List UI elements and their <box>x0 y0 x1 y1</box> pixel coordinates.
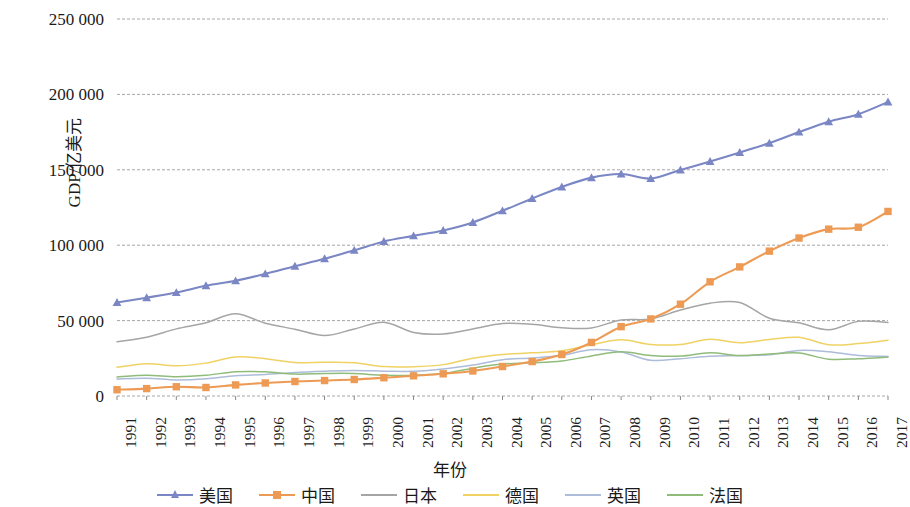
series-line <box>117 301 888 341</box>
y-axis-tick-labels: 250 000200 000150 000100 00050 0000 <box>20 0 104 507</box>
legend-line <box>463 494 499 496</box>
x-tick-label: 2007 <box>597 417 613 448</box>
data-point-marker <box>617 323 624 330</box>
x-tick-label: 2016 <box>864 417 880 448</box>
legend-swatch-icon <box>361 488 397 502</box>
legend-item-2[interactable]: 中国 <box>259 482 335 507</box>
legend-item-6[interactable]: 法国 <box>667 482 743 507</box>
data-point-marker <box>469 367 476 374</box>
series-2 <box>113 208 891 394</box>
x-tick-label: 1996 <box>271 417 287 448</box>
data-point-marker <box>647 315 654 322</box>
data-point-marker <box>143 385 150 392</box>
y-tick-label: 250 000 <box>20 11 104 28</box>
data-point-marker <box>884 208 891 215</box>
plot-area <box>117 19 888 396</box>
x-tick-label: 1999 <box>360 417 376 448</box>
data-point-marker <box>291 378 298 385</box>
x-tick-label: 1993 <box>182 417 198 448</box>
x-tick-label: 1992 <box>153 417 169 448</box>
legend-item-3[interactable]: 日本 <box>361 482 437 507</box>
x-tick-label: 2004 <box>509 417 525 448</box>
x-tick-label: 2011 <box>716 418 732 448</box>
legend-label: 美国 <box>199 482 233 507</box>
y-tick-label: 200 000 <box>20 86 104 103</box>
legend-swatch-icon <box>463 488 499 502</box>
legend-label: 中国 <box>301 482 335 507</box>
x-tick-label: 2006 <box>568 417 584 448</box>
series-3 <box>117 301 888 341</box>
data-point-marker <box>528 358 535 365</box>
x-tick-label: 2008 <box>627 417 643 448</box>
data-point-marker <box>795 234 802 241</box>
y-tick-label: 0 <box>20 388 104 405</box>
data-point-marker <box>588 339 595 346</box>
x-tick-label: 2009 <box>657 417 673 448</box>
data-point-marker <box>766 247 773 254</box>
y-tick-label: 50 000 <box>20 313 104 330</box>
legend-marker-icon <box>171 490 179 498</box>
x-tick-label: 1997 <box>301 417 317 448</box>
data-point-marker <box>706 278 713 285</box>
x-tick-label: 1998 <box>331 417 347 448</box>
legend-item-1[interactable]: 美国 <box>157 482 233 507</box>
x-tick-label: 2005 <box>538 417 554 448</box>
data-point-marker <box>736 263 743 270</box>
data-point-marker <box>321 377 328 384</box>
legend-swatch-icon <box>565 488 601 502</box>
data-point-marker <box>439 370 446 377</box>
x-tick-label: 2002 <box>449 417 465 448</box>
series-1 <box>113 98 893 306</box>
x-tick-label: 1995 <box>242 417 258 448</box>
legend-line <box>667 494 703 496</box>
legend-swatch-icon <box>667 488 703 502</box>
x-tick-label: 2013 <box>775 417 791 448</box>
x-tick-label: 2000 <box>390 417 406 448</box>
x-tick-label: 2003 <box>479 417 495 448</box>
data-point-marker <box>173 383 180 390</box>
x-tick-label: 2015 <box>835 417 851 448</box>
data-point-marker <box>410 372 417 379</box>
y-tick-label: 150 000 <box>20 162 104 179</box>
data-point-marker <box>884 98 893 106</box>
data-point-marker <box>558 351 565 358</box>
data-point-marker <box>825 225 832 232</box>
legend-line <box>361 494 397 496</box>
legend-swatch-icon <box>259 488 295 502</box>
plot-svg <box>117 19 888 396</box>
data-point-marker <box>351 376 358 383</box>
data-point-marker <box>232 381 239 388</box>
x-tick-label: 2010 <box>686 417 702 448</box>
x-tick-label: 1994 <box>212 417 228 448</box>
data-point-marker <box>677 301 684 308</box>
legend-line <box>565 494 601 496</box>
legend-marker-icon <box>273 491 281 499</box>
legend-item-5[interactable]: 英国 <box>565 482 641 507</box>
data-point-marker <box>113 386 120 393</box>
legend-label: 德国 <box>505 482 539 507</box>
data-point-marker <box>380 374 387 381</box>
legend-label: 法国 <box>709 482 743 507</box>
x-tick-label: 2012 <box>746 417 762 448</box>
x-tick-label: 2001 <box>420 417 436 448</box>
legend-label: 英国 <box>607 482 641 507</box>
data-point-marker <box>262 379 269 386</box>
legend-label: 日本 <box>403 482 437 507</box>
legend-swatch-icon <box>157 488 193 502</box>
series-line <box>117 102 888 303</box>
legend-item-4[interactable]: 德国 <box>463 482 539 507</box>
x-tick-label: 1991 <box>123 417 139 448</box>
data-point-marker <box>499 363 506 370</box>
chart-legend: 美国中国日本德国英国法国 <box>0 482 899 507</box>
x-tick-label: 2014 <box>805 417 821 448</box>
data-point-marker <box>855 224 862 231</box>
x-axis-title: 年份 <box>0 456 899 481</box>
y-tick-label: 100 000 <box>20 237 104 254</box>
data-point-marker <box>202 384 209 391</box>
x-tick-label: 2017 <box>894 417 910 448</box>
